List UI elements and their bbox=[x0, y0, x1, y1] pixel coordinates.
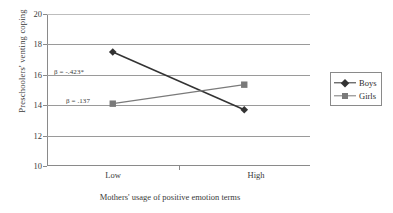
annotation-beta-boys: β = -.423* bbox=[54, 68, 84, 76]
y-tick-label: 14 bbox=[24, 100, 42, 110]
legend-key-square-icon bbox=[334, 90, 356, 102]
legend-item-girls: Girls bbox=[334, 89, 376, 102]
x-tick-label-low: Low bbox=[83, 170, 143, 180]
y-axis-tick-labels: 20 18 16 14 12 10 bbox=[22, 0, 42, 213]
series-layer bbox=[47, 14, 310, 166]
annotation-beta-girls: β = .137 bbox=[66, 97, 90, 105]
y-tick-label: 18 bbox=[24, 39, 42, 49]
y-tick-label: 10 bbox=[24, 161, 42, 171]
data-point-girls-high bbox=[241, 81, 247, 87]
legend-key-diamond-icon bbox=[334, 77, 356, 89]
legend-item-boys: Boys bbox=[334, 76, 376, 89]
plot-area: β = -.423* β = .137 bbox=[47, 14, 310, 166]
chart-legend: Boys Girls bbox=[330, 72, 382, 106]
x-tick-label-high: High bbox=[226, 170, 286, 180]
y-tick-label: 12 bbox=[24, 131, 42, 141]
data-point-boys-low bbox=[109, 48, 117, 56]
legend-label-boys: Boys bbox=[356, 78, 376, 88]
legend-label-girls: Girls bbox=[356, 91, 376, 101]
x-axis-title: Mothers' usage of positive emotion terms bbox=[0, 192, 340, 202]
y-tick-label: 20 bbox=[24, 9, 42, 19]
x-tick-mark bbox=[179, 166, 180, 170]
data-point-girls-low bbox=[110, 100, 116, 106]
data-point-boys-high bbox=[240, 106, 248, 114]
y-tick-mark bbox=[43, 166, 47, 167]
y-tick-label: 16 bbox=[24, 70, 42, 80]
chart-figure: Preschoolers' venting coping 20 18 16 14… bbox=[0, 0, 393, 213]
